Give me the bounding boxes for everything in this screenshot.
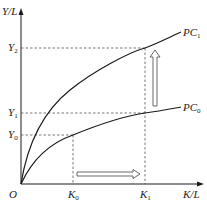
y1-label: Y1 xyxy=(8,107,18,120)
y2-label: Y2 xyxy=(8,42,18,55)
y-axis-label: Y/L xyxy=(2,6,17,17)
technology-shift-arrow-icon xyxy=(150,50,160,106)
x-axis-arrowhead-icon xyxy=(197,182,204,187)
k0-label: K0 xyxy=(68,189,79,202)
guide-lines xyxy=(21,48,145,184)
pc0-label: PC0 xyxy=(183,102,201,115)
origin-label: O xyxy=(9,189,17,200)
pc1-label: PC1 xyxy=(183,27,201,40)
production-curve-diagram: Y/L K/L O Y2 Y1 Y0 K0 K1 PC1 PC0 xyxy=(0,0,207,212)
capital-deepening-arrow-icon xyxy=(77,170,140,179)
k1-label: K1 xyxy=(140,189,151,202)
y-axis-arrowhead-icon xyxy=(19,8,24,15)
x-axis-label: K/L xyxy=(183,189,200,200)
y0-label: Y0 xyxy=(8,129,18,142)
